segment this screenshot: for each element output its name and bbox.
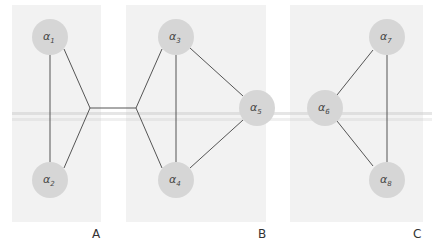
edge-a6-a8 bbox=[337, 121, 373, 166]
edge-a2-j1 bbox=[64, 108, 90, 168]
panel-label-a: A bbox=[92, 227, 100, 241]
edge-a1-j1 bbox=[64, 49, 90, 108]
edge-j2-a3 bbox=[136, 49, 162, 108]
edge-a6-a7 bbox=[337, 50, 373, 95]
panel-label-b: B bbox=[258, 227, 266, 241]
edge-a3-a5 bbox=[190, 48, 243, 96]
nodes bbox=[32, 19, 405, 198]
panel-label-c: C bbox=[413, 227, 421, 241]
edge-a4-a5 bbox=[190, 120, 243, 168]
edge-j2-a4 bbox=[136, 108, 162, 168]
